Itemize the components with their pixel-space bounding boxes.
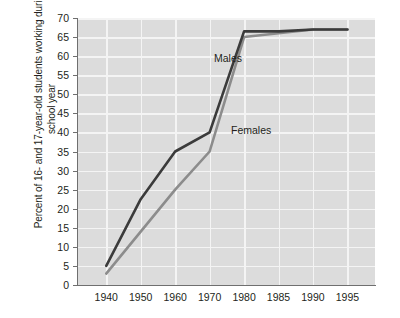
line-females [106, 29, 347, 273]
series-lines [0, 0, 400, 318]
series-label-males: Males [214, 52, 242, 64]
chart-figure: Percent of 16- and 17-year-old students … [0, 0, 400, 318]
series-label-females: Females [231, 124, 271, 136]
